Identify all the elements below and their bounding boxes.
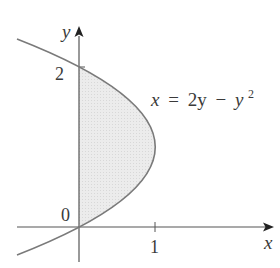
y-axis-arrow-icon xyxy=(75,26,84,37)
equation-term2-exp: 2 xyxy=(248,87,254,101)
x-axis-label: x xyxy=(263,232,273,253)
equation-label: x = 2y − y 2 xyxy=(150,87,254,110)
equation-term2-base: y xyxy=(233,89,244,110)
y-tick-label-2: 2 xyxy=(55,64,64,84)
equation-term1: 2y xyxy=(188,89,208,110)
x-tick-label-1: 1 xyxy=(150,237,159,257)
equation-equals: = xyxy=(168,89,179,110)
y-axis-label: y xyxy=(60,21,71,42)
parabola-area-figure: y x 0 2 1 x = 2y − y 2 xyxy=(0,0,280,268)
equation-minus: − xyxy=(215,89,226,110)
equation-lhs: x xyxy=(150,89,160,110)
svg-text:x = 2y: x = 2y − y 2 xyxy=(150,87,254,110)
diagram-canvas: y x 0 2 1 x = 2y − y 2 xyxy=(0,0,280,268)
origin-label: 0 xyxy=(61,205,70,225)
